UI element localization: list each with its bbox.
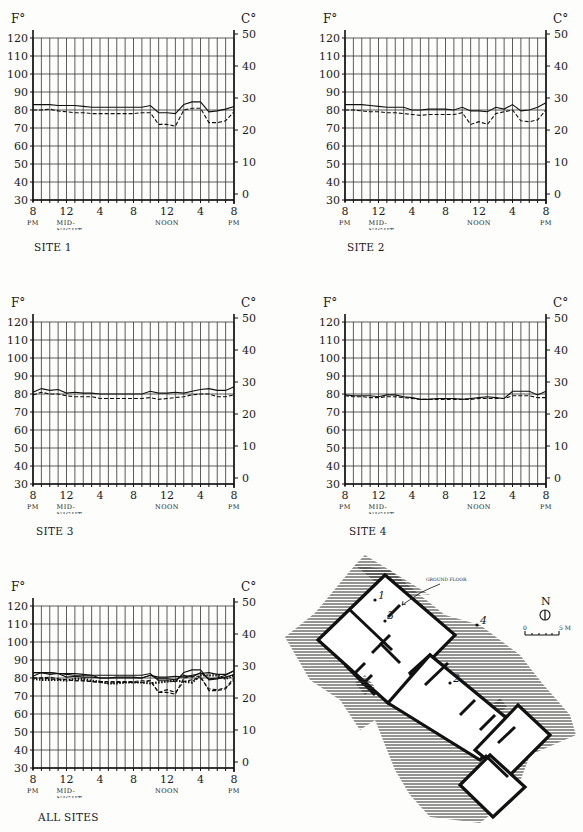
ground-floor-label: GROUND FLOOR <box>426 577 467 582</box>
x-tick-label: 8 <box>30 489 37 502</box>
point-label-2: 2 <box>452 672 460 685</box>
f-tick-label: 100 <box>7 636 28 649</box>
c-tick-label: 0 <box>242 188 249 201</box>
c-tick-label: 50 <box>242 28 256 41</box>
x-tick-label: 12 <box>372 205 386 218</box>
f-tick-label: 90 <box>326 370 340 383</box>
x-tick-label: 12 <box>160 773 174 786</box>
c-tick-label: 20 <box>242 692 256 705</box>
f-tick-label: 120 <box>7 32 28 45</box>
x-tick-sublabel: MID- <box>369 503 388 511</box>
x-tick-label: 4 <box>97 489 104 502</box>
x-tick-sublabel: PM <box>540 219 552 227</box>
c-tick-label: 30 <box>242 376 256 389</box>
f-tick-label: 110 <box>319 50 340 63</box>
grid <box>345 38 546 200</box>
x-tick-label: 4 <box>509 205 516 218</box>
x-tick-label: 12 <box>60 205 74 218</box>
x-tick-label: 8 <box>30 205 37 218</box>
f-tick-label: 40 <box>326 176 340 189</box>
celsius-unit: C° <box>553 296 568 310</box>
f-tick-label: 100 <box>7 352 28 365</box>
chart-site-1: 1201101009080706050403050403020100F°C°8P… <box>0 0 290 234</box>
x-tick-label: 8 <box>30 773 37 786</box>
site-3-label: SITE 3 <box>36 525 74 537</box>
c-tick-label: 40 <box>554 60 568 73</box>
f-tick-label: 120 <box>7 316 28 329</box>
f-tick-label: 50 <box>326 442 340 455</box>
x-tick-label: 12 <box>472 489 486 502</box>
celsius-unit: C° <box>241 580 256 594</box>
f-tick-label: 70 <box>14 406 28 419</box>
f-tick-label: 70 <box>14 690 28 703</box>
f-tick-label: 120 <box>319 32 340 45</box>
x-tick-label: 12 <box>160 489 174 502</box>
x-tick-sublabel: PM <box>228 787 240 795</box>
x-tick-sublabel: PM <box>228 503 240 511</box>
x-tick-label: 4 <box>197 205 204 218</box>
f-tick-label: 110 <box>7 334 28 347</box>
x-tick-label: 4 <box>509 489 516 502</box>
x-tick-sublabel: NIGHT <box>57 227 83 230</box>
x-tick-label: 4 <box>197 489 204 502</box>
x-tick-sublabel: NOON <box>155 503 179 511</box>
x-tick-label: 8 <box>442 205 449 218</box>
x-tick-label: 4 <box>97 205 104 218</box>
f-tick-label: 40 <box>326 460 340 473</box>
f-tick-label: 90 <box>326 86 340 99</box>
f-tick-label: 40 <box>14 460 28 473</box>
point-label-4: 4 <box>479 614 487 627</box>
scale-end-label: 5 M <box>559 624 571 631</box>
x-tick-sublabel: PM <box>27 503 39 511</box>
x-tick-sublabel: MID- <box>57 787 76 795</box>
all-sites-label: ALL SITES <box>38 811 99 823</box>
f-tick-label: 80 <box>14 388 28 401</box>
chart-site-1-svg: 1201101009080706050403050403020100F°C°8P… <box>0 0 290 230</box>
c-tick-label: 20 <box>554 124 568 137</box>
f-tick-label: 80 <box>326 388 340 401</box>
c-tick-label: 0 <box>242 472 249 485</box>
x-tick-label: 12 <box>472 205 486 218</box>
c-tick-label: 30 <box>554 376 568 389</box>
c-tick-label: 20 <box>242 124 256 137</box>
f-tick-label: 60 <box>326 424 340 437</box>
c-tick-label: 20 <box>554 408 568 421</box>
f-tick-label: 70 <box>326 122 340 135</box>
f-tick-label: 50 <box>14 726 28 739</box>
f-tick-label: 30 <box>14 762 28 775</box>
f-tick-label: 80 <box>326 104 340 117</box>
chart-site-3: 1201101009080706050403050403020100F°C°8P… <box>0 284 290 518</box>
scale-start-label: 0 <box>523 624 527 631</box>
x-tick-sublabel: NIGHT <box>57 795 83 798</box>
f-tick-label: 100 <box>7 68 28 81</box>
c-tick-label: 10 <box>242 440 256 453</box>
celsius-unit: C° <box>241 12 256 26</box>
f-tick-label: 60 <box>14 708 28 721</box>
x-tick-label: 8 <box>231 489 238 502</box>
site-floor-plan: 1 3 2 4 GROUND FLOOR N 0 5 M <box>280 555 583 832</box>
x-tick-sublabel: PM <box>27 219 39 227</box>
f-tick-label: 120 <box>319 316 340 329</box>
fahrenheit-unit: F° <box>323 12 337 26</box>
grid <box>33 322 234 484</box>
grid <box>345 322 546 484</box>
c-tick-label: 0 <box>554 472 561 485</box>
x-tick-label: 8 <box>442 489 449 502</box>
f-tick-label: 110 <box>7 618 28 631</box>
x-tick-sublabel: PM <box>339 503 351 511</box>
c-tick-label: 40 <box>242 628 256 641</box>
scale-bar <box>525 631 559 635</box>
chart-site-2-svg: 1201101009080706050403050403020100F°C°8P… <box>312 0 583 230</box>
point-label-1: 1 <box>378 589 385 602</box>
c-tick-label: 50 <box>554 28 568 41</box>
f-tick-label: 50 <box>14 442 28 455</box>
fahrenheit-unit: F° <box>11 580 25 594</box>
x-tick-label: 8 <box>130 205 137 218</box>
x-tick-sublabel: NOON <box>467 219 491 227</box>
c-tick-label: 20 <box>242 408 256 421</box>
x-tick-sublabel: PM <box>540 503 552 511</box>
chart-all-sites-svg: 1201101009080706050403050403020100F°C°8P… <box>0 568 290 798</box>
f-tick-label: 30 <box>326 478 340 491</box>
f-tick-label: 100 <box>319 352 340 365</box>
x-tick-sublabel: MID- <box>369 219 388 227</box>
